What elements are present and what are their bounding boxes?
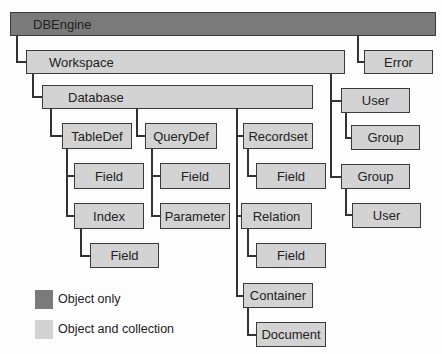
node-dbengine: DBEngine <box>10 12 436 36</box>
connector <box>345 112 347 138</box>
node-error: Error <box>364 50 433 74</box>
connector <box>330 100 341 102</box>
connector <box>247 307 249 335</box>
node-group: Group <box>341 164 410 189</box>
node-label: Field <box>277 169 305 184</box>
node-label: DBEngine <box>33 17 92 32</box>
connector <box>357 35 359 62</box>
connector <box>80 228 82 256</box>
node-label: Recordset <box>248 129 307 144</box>
node-label: Container <box>250 288 306 303</box>
node-label: User <box>362 93 389 108</box>
connector <box>247 228 249 256</box>
connector <box>16 35 18 62</box>
connector <box>66 148 68 216</box>
node-parameter: Parameter <box>160 203 230 229</box>
connector <box>247 148 249 176</box>
connector <box>136 108 138 136</box>
node-label: Database <box>68 90 124 105</box>
legend-label-object-only: Object only <box>58 292 121 306</box>
node-label: TableDef <box>71 129 122 144</box>
node-label: Document <box>261 327 320 342</box>
node-label: Field <box>95 169 123 184</box>
node-recordset-field: Field <box>256 163 326 189</box>
node-label: Group <box>357 169 393 184</box>
node-label: Workspace <box>49 55 114 70</box>
node-label: User <box>373 208 400 223</box>
node-label: Relation <box>253 209 301 224</box>
node-label: Parameter <box>165 209 226 224</box>
node-relation-field: Field <box>256 243 326 268</box>
node-user-group: Group <box>351 125 420 150</box>
node-user: User <box>341 88 410 113</box>
node-label: Field <box>181 169 209 184</box>
node-label: Error <box>384 55 413 70</box>
node-label: Group <box>367 130 403 145</box>
node-index-field: Field <box>90 243 159 268</box>
node-container: Container <box>243 283 313 308</box>
node-querydef-field: Field <box>160 163 230 189</box>
legend-swatch-object-and-collection <box>35 320 53 339</box>
node-group-user: User <box>352 203 421 228</box>
connector <box>330 73 332 177</box>
node-tabledef: TableDef <box>62 123 132 149</box>
node-label: Field <box>110 248 138 263</box>
node-index: Index <box>74 203 144 229</box>
connector <box>32 73 34 97</box>
node-label: Field <box>277 248 305 263</box>
node-workspace: Workspace <box>26 50 345 74</box>
node-querydef: QueryDef <box>145 123 217 149</box>
connector <box>50 108 52 136</box>
node-label: Index <box>93 209 125 224</box>
node-relation: Relation <box>241 203 312 229</box>
connector <box>345 188 347 215</box>
node-label: QueryDef <box>153 129 209 144</box>
node-recordset: Recordset <box>243 123 313 149</box>
node-document: Document <box>256 322 326 347</box>
legend-label-object-and-collection: Object and collection <box>58 322 174 336</box>
node-database: Database <box>42 85 313 109</box>
connector <box>151 148 153 216</box>
legend-swatch-object-only <box>35 290 53 309</box>
node-tabledef-field: Field <box>74 163 144 189</box>
connector <box>330 176 341 178</box>
